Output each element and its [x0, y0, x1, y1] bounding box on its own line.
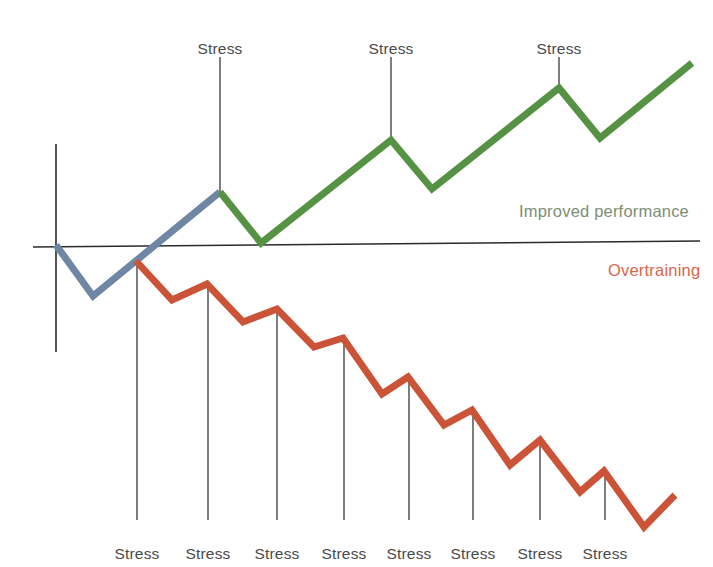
stress-label-top-1: Stress — [197, 40, 242, 58]
series-line-initial-response — [56, 192, 220, 296]
stress-adaptation-chart: StressStressStressStressStressStressStre… — [0, 0, 713, 567]
chart-canvas — [0, 0, 713, 567]
stress-label-bottom-11: Stress — [582, 545, 627, 563]
stress-label-bottom-7: Stress — [321, 545, 366, 563]
legend-label-overtraining: Overtraining — [608, 261, 700, 280]
stress-label-bottom-4: Stress — [114, 545, 159, 563]
stress-label-top-3: Stress — [536, 40, 581, 58]
stress-label-bottom-10: Stress — [517, 545, 562, 563]
stress-label-top-2: Stress — [368, 40, 413, 58]
data-series-group — [56, 63, 692, 527]
x-axis-line — [33, 241, 700, 247]
axes-group — [33, 144, 700, 352]
stress-label-bottom-9: Stress — [450, 545, 495, 563]
stress-label-bottom-8: Stress — [386, 545, 431, 563]
stress-label-bottom-5: Stress — [185, 545, 230, 563]
legend-label-improved-performance: Improved performance — [519, 202, 689, 221]
series-line-overtraining — [136, 261, 675, 527]
stress-label-bottom-6: Stress — [254, 545, 299, 563]
